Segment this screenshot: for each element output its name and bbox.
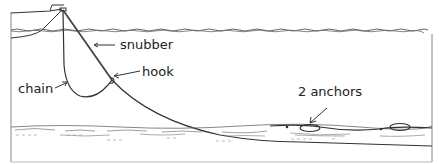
diagram-drawing [0,0,439,164]
label-arrows [55,43,327,123]
label-snubber: snubber [120,38,173,51]
label-chain: chain [18,82,53,95]
boat [11,5,66,38]
anchoring-diagram: snubber hook chain 2 anchors [0,0,439,164]
seabed [11,124,432,141]
water-surface [11,29,428,33]
label-hook: hook [142,65,174,78]
label-anchors: 2 anchors [298,85,362,98]
